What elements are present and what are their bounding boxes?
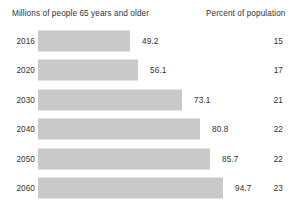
row-bar-group: 49.2: [38, 30, 158, 51]
row-year-label: 2020: [0, 66, 35, 75]
bar-value-label: 56.1: [150, 66, 166, 75]
header-percent-label: Percent of population: [206, 9, 285, 18]
percent-value-label: 17: [274, 66, 283, 75]
bar-millions: [38, 60, 138, 81]
chart-rows: 201649.215202056.117203073.121204080.822…: [0, 26, 302, 203]
chart-row: 202056.117: [0, 56, 302, 86]
chart-row: 203073.121: [0, 85, 302, 115]
row-bar-group: 56.1: [38, 60, 166, 81]
percent-value-label: 22: [274, 154, 283, 163]
bar-millions: [38, 30, 130, 51]
bar-millions: [38, 89, 182, 110]
percent-value-label: 22: [274, 125, 283, 134]
bar-value-label: 94.7: [235, 184, 251, 193]
bar-millions: [38, 178, 223, 199]
row-year-label: 2060: [0, 184, 35, 193]
population-age-bar-chart: Millions of people 65 years and older Pe…: [0, 0, 302, 211]
row-year-label: 2040: [0, 125, 35, 134]
row-bar-group: 73.1: [38, 89, 210, 110]
bar-millions: [38, 148, 210, 169]
percent-value-label: 23: [274, 184, 283, 193]
percent-value-label: 21: [274, 95, 283, 104]
row-bar-group: 80.8: [38, 119, 228, 140]
chart-row: 201649.215: [0, 26, 302, 56]
bar-value-label: 49.2: [142, 36, 158, 45]
row-year-label: 2016: [0, 36, 35, 45]
row-year-label: 2050: [0, 154, 35, 163]
bar-value-label: 73.1: [194, 95, 210, 104]
percent-value-label: 15: [274, 36, 283, 45]
header-millions-label: Millions of people 65 years and older: [12, 9, 149, 18]
row-bar-group: 94.7: [38, 178, 251, 199]
bar-millions: [38, 119, 200, 140]
chart-row: 204080.822: [0, 115, 302, 145]
bar-value-label: 80.8: [212, 125, 228, 134]
chart-header: Millions of people 65 years and older Pe…: [0, 0, 302, 26]
row-bar-group: 85.7: [38, 148, 238, 169]
chart-row: 206094.723: [0, 174, 302, 204]
bar-value-label: 85.7: [222, 154, 238, 163]
chart-row: 205085.722: [0, 144, 302, 174]
row-year-label: 2030: [0, 95, 35, 104]
